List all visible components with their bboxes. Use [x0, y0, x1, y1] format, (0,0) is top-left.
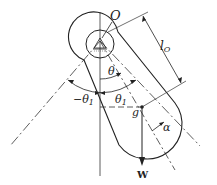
length-arrow-top — [142, 16, 146, 22]
pendulum-body — [68, 12, 182, 159]
weight-arrowhead — [139, 157, 145, 166]
neg-theta1-label: −θ1 — [73, 93, 94, 107]
theta-label: θ — [108, 65, 115, 78]
theta1-pos-arrow — [130, 80, 136, 84]
theta1-label: θ1 — [115, 93, 127, 107]
length-arrow-bottom — [178, 77, 182, 83]
length-extension-bottom — [142, 81, 186, 107]
theta1-arc — [68, 80, 136, 93]
theta1-neg-arrow — [68, 80, 74, 84]
pivot-label: O — [110, 8, 121, 23]
theta1-mid-arrow-right — [100, 91, 105, 95]
cg-label: g — [132, 106, 139, 119]
length-label: lO — [160, 39, 171, 54]
alpha-label: α — [163, 121, 171, 134]
pendulum-diagram: O lO θ −θ1 θ1 g α W — [0, 0, 217, 185]
weight-label: W — [136, 169, 149, 180]
